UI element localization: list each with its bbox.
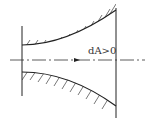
flow-arrow-icon (74, 58, 80, 62)
diverging-duct-diagram: dA>0 (0, 0, 151, 129)
lower-wall (22, 72, 116, 106)
lower-wall-hatching (22, 68, 110, 109)
area-change-label: dA>0 (88, 45, 116, 56)
